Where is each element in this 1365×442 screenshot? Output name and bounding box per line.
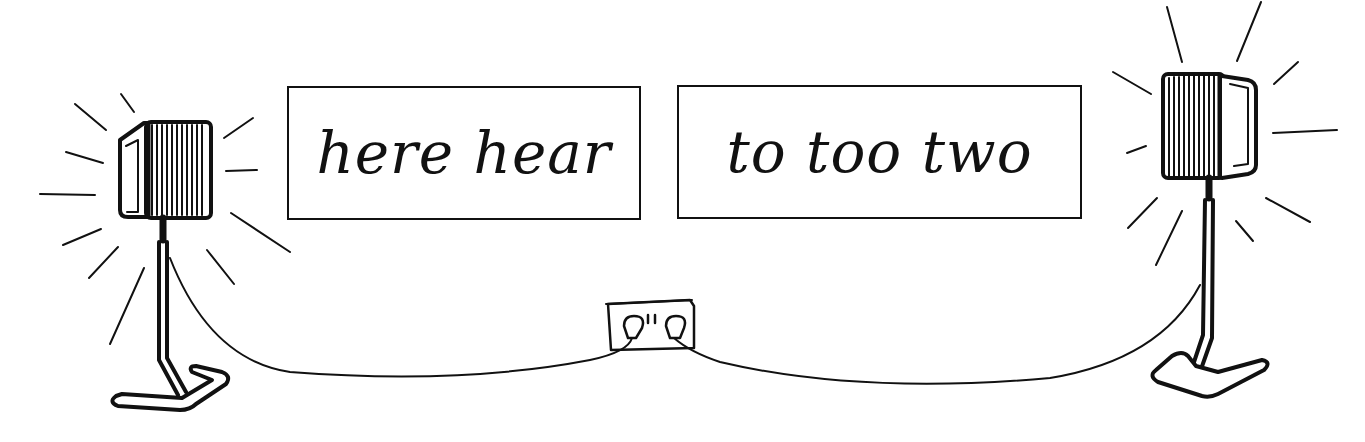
word-card-here-hear: here hear [287,86,641,220]
word-card-text: here hear [316,119,611,187]
left-speaker-icon [40,94,290,410]
word-card-to-too-two: to too two [677,85,1082,219]
word-card-text: to too two [726,118,1032,186]
right-speaker-icon [1113,2,1337,397]
illustration-canvas [0,0,1365,442]
